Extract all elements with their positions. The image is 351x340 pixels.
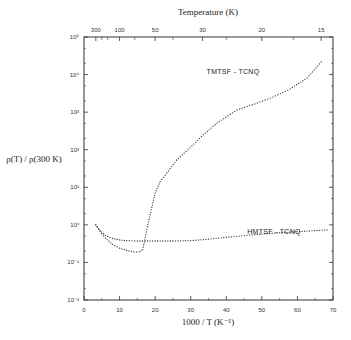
svg-text:300: 300 [91, 27, 102, 33]
svg-text:10: 10 [116, 307, 123, 313]
y-axis-title: ρ(T) / ρ(300 K) [6, 154, 62, 164]
svg-text:10¹: 10¹ [70, 184, 79, 190]
svg-text:60: 60 [294, 307, 301, 313]
label-hmtsf-tcnq: HMTSF - TCNQ [247, 228, 301, 236]
svg-text:0: 0 [82, 307, 86, 313]
resistivity-chart: 010203040506070 10⁻²10⁻¹10⁰10¹10²10³10⁴1… [0, 0, 351, 340]
svg-text:50: 50 [152, 27, 159, 33]
x-axis-title: 1000 / T (K⁻¹) [182, 317, 235, 327]
data-series [95, 61, 328, 252]
svg-text:10²: 10² [70, 147, 79, 153]
top-temperature-ticks: 30010050302015 [91, 27, 325, 41]
svg-text:70: 70 [330, 307, 337, 313]
svg-text:40: 40 [223, 307, 230, 313]
svg-text:10⁻²: 10⁻² [67, 297, 79, 303]
svg-text:10⁰: 10⁰ [70, 222, 80, 228]
svg-text:50: 50 [259, 307, 266, 313]
svg-text:10⁴: 10⁴ [70, 72, 80, 78]
svg-text:15: 15 [318, 27, 325, 33]
svg-text:10³: 10³ [70, 109, 79, 115]
plot-frame [84, 37, 333, 300]
y-axis-ticks: 10⁻²10⁻¹10⁰10¹10²10³10⁴10⁵ [67, 34, 333, 303]
svg-text:10⁻¹: 10⁻¹ [67, 259, 79, 265]
svg-text:30: 30 [187, 307, 194, 313]
x-axis-ticks: 010203040506070 [82, 296, 337, 313]
svg-text:20: 20 [259, 27, 266, 33]
svg-text:20: 20 [152, 307, 159, 313]
svg-text:100: 100 [115, 27, 126, 33]
top-axis-title: Temperature (K) [178, 7, 238, 17]
svg-text:10⁵: 10⁵ [70, 34, 80, 40]
label-tmtsf-tcnq: TMTSF - TCNQ [207, 68, 260, 76]
svg-text:30: 30 [199, 27, 206, 33]
